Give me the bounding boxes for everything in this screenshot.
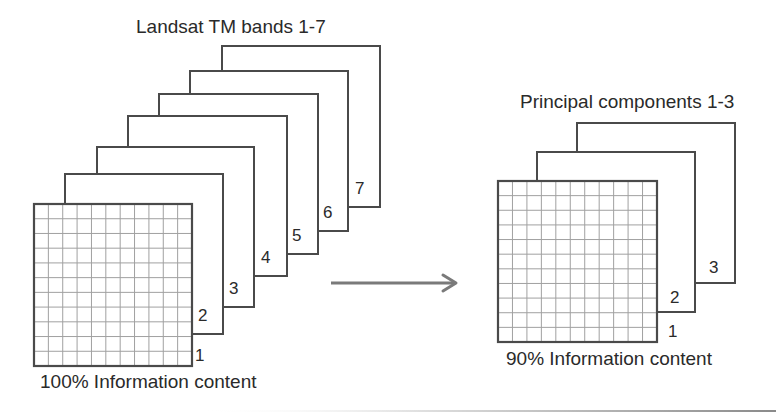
principal-components-title: Principal components 1-3 <box>520 91 734 112</box>
landsat-band-label: 5 <box>292 226 301 245</box>
landsat-bands-title: Landsat TM bands 1-7 <box>136 16 326 37</box>
landsat-band-label: 7 <box>355 179 364 198</box>
principal-component-label: 2 <box>670 288 679 307</box>
landsat-band-label: 4 <box>261 248 270 267</box>
principal-component-stack <box>498 123 735 342</box>
principal-component-label: 1 <box>668 322 677 341</box>
transform-arrow-icon <box>331 275 456 291</box>
principal-component-label: 3 <box>709 258 718 277</box>
landsat-band-label: 2 <box>198 306 207 325</box>
bottom-divider <box>200 410 776 412</box>
landsat-band-1 <box>34 204 192 366</box>
principal-component-frame <box>498 181 657 342</box>
principal-components-information-caption: 90% Information content <box>506 348 713 369</box>
landsat-band-label: 1 <box>195 346 204 365</box>
landsat-band-label: 6 <box>323 203 332 222</box>
landsat-information-caption: 100% Information content <box>40 371 257 392</box>
landsat-band-label: 3 <box>229 279 238 298</box>
landsat-band-frame <box>34 204 192 366</box>
principal-component-1 <box>498 181 657 342</box>
pca-diagram: Landsat TM bands 1-7 100% Information co… <box>0 0 779 414</box>
